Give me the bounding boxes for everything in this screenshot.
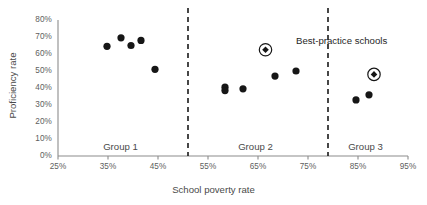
data-point bbox=[365, 91, 372, 98]
data-point bbox=[117, 34, 124, 41]
data-point bbox=[137, 37, 144, 44]
scatter-chart: 0%10%20%30%40%50%60%70%80%25%35%45%55%65… bbox=[0, 0, 427, 205]
best-practice-annotation-label: Best-practice schools bbox=[296, 35, 387, 46]
y-tick-label: 80% bbox=[8, 15, 52, 24]
x-tick-label: 25% bbox=[38, 162, 78, 171]
x-tick-label: 55% bbox=[188, 162, 228, 171]
x-tick-label: 65% bbox=[238, 162, 278, 171]
data-point bbox=[127, 42, 134, 49]
group-label-2: Group 2 bbox=[216, 141, 296, 152]
data-point bbox=[221, 87, 228, 94]
group-label-1: Group 1 bbox=[81, 141, 161, 152]
data-point bbox=[271, 73, 278, 80]
chart-canvas bbox=[0, 0, 427, 205]
data-point bbox=[352, 96, 359, 103]
x-tick-label: 75% bbox=[288, 162, 328, 171]
data-point bbox=[292, 67, 299, 74]
x-tick-label: 35% bbox=[88, 162, 128, 171]
x-tick-label: 95% bbox=[388, 162, 427, 171]
y-axis-title: Proficiency rate bbox=[7, 31, 18, 141]
group-label-3: Group 3 bbox=[326, 141, 406, 152]
x-tick-label: 85% bbox=[338, 162, 378, 171]
y-tick-label: 0% bbox=[8, 151, 52, 160]
data-point bbox=[151, 66, 158, 73]
x-tick-label: 45% bbox=[138, 162, 178, 171]
best-practice-diamond bbox=[371, 71, 378, 78]
annotation-marker-diamond bbox=[262, 46, 269, 53]
data-point bbox=[103, 43, 110, 50]
data-point bbox=[239, 85, 246, 92]
x-axis-title: School poverty rate bbox=[0, 184, 427, 195]
